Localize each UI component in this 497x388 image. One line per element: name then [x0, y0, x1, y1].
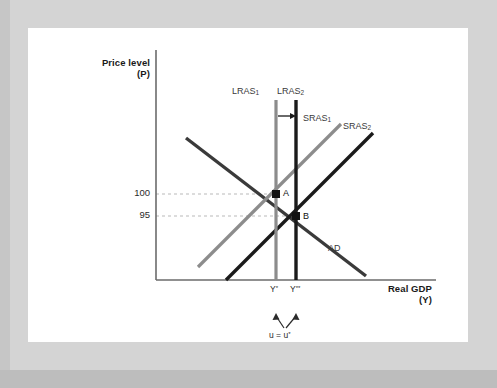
x-axis-title-line2: (Y) — [419, 294, 432, 305]
y-axis-title-line2: (P) — [137, 68, 150, 79]
label-lras1-text: LRAS — [232, 86, 256, 96]
frame-left-band — [0, 0, 10, 388]
x-tick-y-double-star-sup: ** — [296, 284, 301, 291]
unemployment-note-sup: * — [288, 330, 290, 337]
y-tick-95: 95 — [116, 210, 150, 221]
label-lras2: LRAS2 — [277, 86, 304, 97]
bracket-left-arrowhead — [273, 313, 280, 320]
y-tick-100: 100 — [116, 188, 150, 199]
label-sras2-text: SRAS — [343, 121, 368, 131]
label-ad-text: AD — [328, 243, 341, 253]
x-axis-title-line1: Real GDP — [388, 283, 432, 294]
curve-sras1 — [198, 124, 341, 267]
label-unemployment-note: u = u* — [269, 330, 291, 341]
bracket-right-arrowhead — [293, 313, 300, 320]
label-sras1: SRAS1 — [303, 113, 331, 124]
label-point-a: A — [283, 188, 289, 198]
label-ad: AD — [328, 243, 341, 253]
label-point-b: B — [303, 211, 309, 221]
point-a-marker — [272, 190, 280, 198]
unemployment-note-text: u = u — [269, 330, 288, 340]
y-axis-title-line1: Price level — [102, 57, 150, 68]
figure-frame: Price level (P) Real GDP (Y) 100 95 Y* Y… — [0, 0, 497, 388]
x-tick-y-star-sup: * — [276, 284, 278, 291]
label-sras2-sub: 2 — [368, 124, 372, 131]
x-tick-y-double-star: Y** — [290, 284, 300, 295]
curve-sras2 — [226, 133, 373, 280]
label-lras1-sub: 1 — [256, 89, 260, 96]
frame-bottom-band — [0, 370, 497, 388]
point-b-marker — [292, 212, 300, 220]
label-lras1: LRAS1 — [232, 86, 259, 97]
label-sras2: SRAS2 — [343, 121, 371, 132]
x-tick-y-star: Y* — [270, 284, 278, 295]
label-sras1-sub: 1 — [328, 116, 332, 123]
label-sras1-text: SRAS — [303, 113, 328, 123]
y-axis-title: Price level (P) — [74, 58, 150, 80]
label-lras2-text: LRAS — [277, 86, 301, 96]
diagram-canvas: Price level (P) Real GDP (Y) 100 95 Y* Y… — [28, 28, 468, 342]
label-lras2-sub: 2 — [301, 89, 305, 96]
x-axis-title: Real GDP (Y) — [348, 284, 432, 306]
